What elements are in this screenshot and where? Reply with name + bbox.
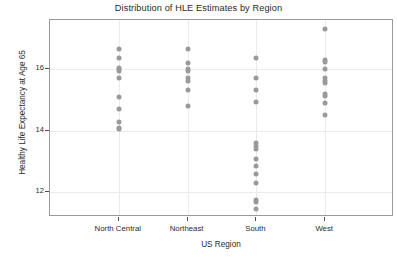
data-point [323,60,328,65]
gridline-vertical [256,20,257,215]
data-point [254,207,259,212]
x-axis-label: US Region [49,240,393,249]
y-tick-label: 14 [36,125,44,134]
page-title: Distribution of HLE Estimates by Region [0,3,397,13]
data-point [116,55,121,60]
data-point [116,127,121,132]
gridline-horizontal [50,131,392,132]
data-point [185,61,190,66]
data-point [254,146,259,151]
data-point [254,181,259,186]
data-point [254,171,259,176]
x-tick-label: Northeast [170,224,204,233]
x-tick-mark [324,217,325,221]
data-point [185,87,190,92]
data-point [323,101,328,106]
data-point [323,94,328,99]
x-tick-label: North Central [95,224,141,233]
chart-figure: Distribution of HLE Estimates by Region … [0,0,397,264]
data-point [116,107,121,112]
data-point [323,67,328,72]
gridline-horizontal [50,192,392,193]
x-tick-mark [118,217,119,221]
x-tick-mark [187,217,188,221]
data-point [116,75,121,80]
y-tick-label: 16 [36,63,44,72]
data-point [254,200,259,205]
data-point [254,75,259,80]
data-point [254,87,259,92]
x-tick-mark [255,217,256,221]
data-point [323,113,328,118]
data-point [185,68,190,73]
x-tick-label: South [245,224,265,233]
data-point [185,104,190,109]
gridline-horizontal [50,69,392,70]
data-point [185,78,190,83]
y-axis-label: Healthy Life Expectancy at Age 65 [18,23,27,203]
plot-panel [49,19,393,216]
data-point [116,94,121,99]
data-point [185,47,190,52]
data-point [323,81,328,86]
data-point [254,164,259,169]
data-point [116,47,121,52]
x-tick-label: West [315,224,333,233]
data-point [254,156,259,161]
data-point [116,68,121,73]
data-point [254,100,259,105]
data-point [116,120,121,125]
y-tick-label: 12 [36,186,44,195]
data-point [254,55,259,60]
data-point [323,27,328,32]
